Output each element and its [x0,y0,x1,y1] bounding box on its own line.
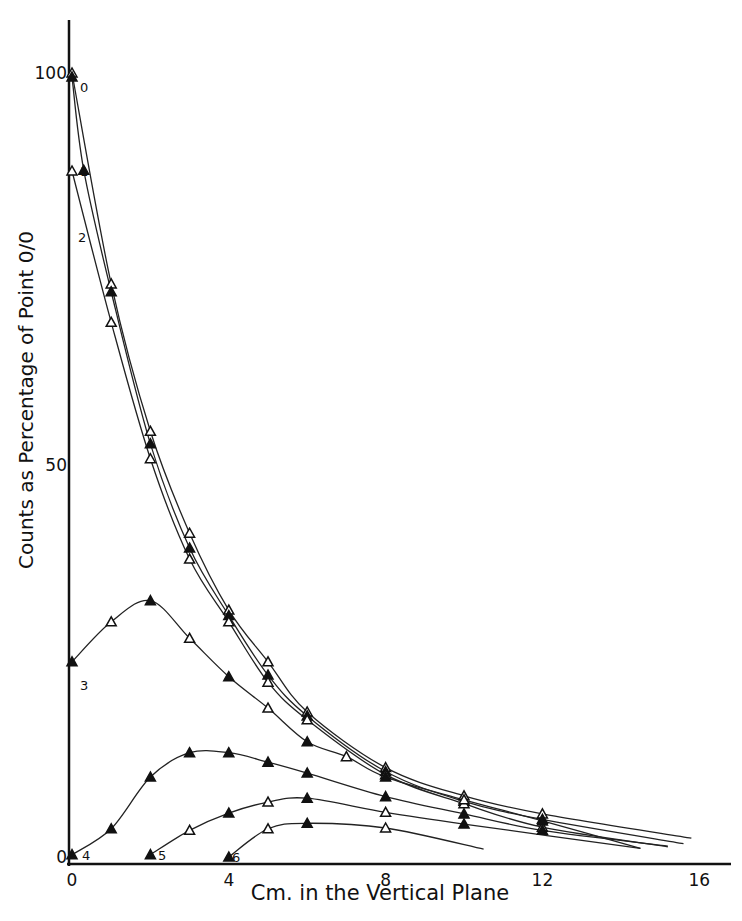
data-markers [67,68,547,861]
triangle-marker-icon [106,317,116,326]
triangle-marker-icon [224,808,234,817]
y-tick-label: 0 [56,847,67,867]
triangle-marker-icon [185,825,195,834]
x-tick-label: 0 [67,870,78,890]
curve-label-5: 5 [158,848,166,863]
curve-2 [72,171,668,847]
triangle-marker-icon [185,528,195,537]
triangle-marker-icon [263,824,273,833]
decay-curves-chart: 0481216 050100 Cm. in the Vertical Plane… [0,0,742,921]
x-tick-label: 12 [532,870,554,890]
curve-label-2: 2 [78,230,86,245]
curve-label-4: 4 [82,848,90,863]
triangle-marker-icon [145,850,155,859]
x-axis-label: Cm. in the Vertical Plane [251,881,509,905]
data-curves [72,73,691,857]
y-tick-label: 100 [35,63,67,83]
triangle-marker-icon [302,737,312,746]
curve-5 [150,798,640,855]
curve-3 [72,600,640,848]
curve-label-6: 6 [232,850,240,865]
triangle-marker-icon [185,543,195,552]
x-tick-label: 16 [688,870,710,890]
triangle-marker-icon [106,617,116,626]
curve-label-1: 1 [80,164,88,179]
y-axis-label: Counts as Percentage of Point 0/0 [14,231,38,569]
curve-0 [72,73,691,838]
curve-1 [72,77,684,844]
curve-label-3: 3 [80,678,88,693]
axes [67,20,731,866]
y-tick-label: 50 [45,455,67,475]
triangle-marker-icon [341,752,351,761]
y-tick-labels: 050100 [35,63,67,867]
curve-label-0: 0 [80,80,88,95]
x-tick-label: 4 [223,870,234,890]
